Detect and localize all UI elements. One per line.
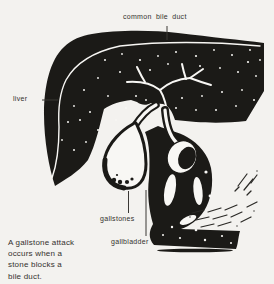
duodenum-underline [157,249,233,253]
anatomy-figure: common bile duct liver gallstones gallbl… [0,0,274,284]
figure-caption: A gallstone attack occurs when a stone b… [8,237,108,282]
liver-label: liver [13,95,27,103]
gallbladder-label: gallbladder [111,238,149,246]
common-bile-duct-label: common bile duct [123,13,187,21]
gallstones-label: gallstones [100,215,135,223]
caption-line: A gallstone attack [8,237,108,248]
gallbladder-shape [104,123,146,189]
caption-line: occurs when a [8,248,108,259]
caption-line: stone blocks a [8,259,108,270]
caption-line: bile duct. [8,271,108,282]
